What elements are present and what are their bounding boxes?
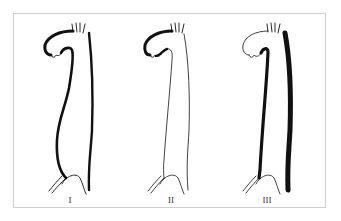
panel-iii-arch-branches bbox=[267, 23, 280, 33]
panel-ii-arch-outer-wall bbox=[145, 31, 172, 55]
panel-i-root bbox=[51, 53, 61, 57]
panel-iii-label: III bbox=[263, 195, 272, 205]
panel-i-aorta bbox=[45, 23, 93, 194]
panel-iii-aorta bbox=[243, 23, 291, 194]
panel-i-iliac-left bbox=[49, 176, 66, 193]
aorta-diagram: I II III bbox=[0, 0, 341, 221]
panel-i-label: I bbox=[69, 195, 72, 205]
panel-i-left-wall bbox=[57, 48, 73, 178]
panel-iii-left-wall bbox=[259, 49, 268, 178]
panel-ii-aorta bbox=[145, 23, 190, 194]
panel-ii-arch-inner-wall bbox=[156, 49, 167, 56]
panel-i-arch-outer-wall bbox=[45, 31, 73, 55]
panel-ii-iliac-left bbox=[148, 176, 164, 193]
panel-iii-iliac-left bbox=[243, 176, 259, 193]
panel-iii-root bbox=[249, 53, 261, 57]
panel-iii-arch-outer-wall bbox=[243, 31, 268, 55]
panel-i-right-wall bbox=[89, 33, 93, 190]
panel-ii-label: II bbox=[168, 195, 174, 205]
panel-ii-right-wall bbox=[184, 34, 189, 190]
panel-ii-left-wall bbox=[164, 49, 173, 178]
panel-iii-right-wall bbox=[285, 33, 290, 190]
